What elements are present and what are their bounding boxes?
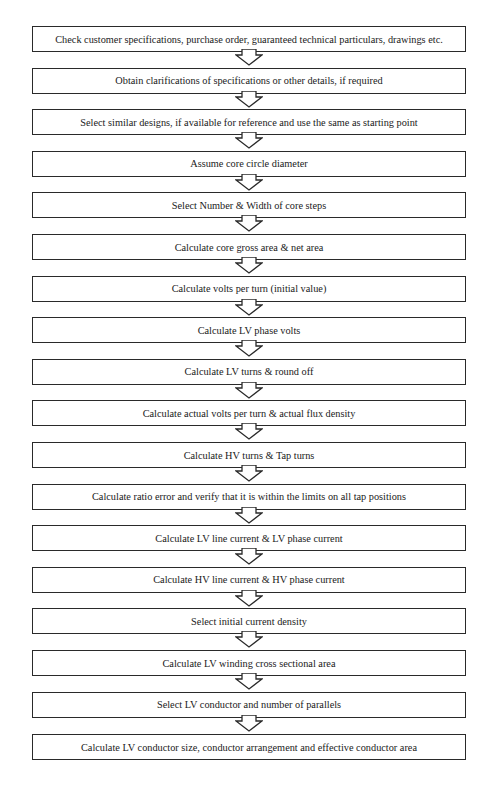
down-arrow-icon [235,215,263,232]
step-label: Calculate volts per turn (initial value) [172,283,327,294]
down-arrow-icon [235,423,263,440]
step-label: Obtain clarifications of specifications … [115,75,382,86]
down-arrow-icon [235,91,263,108]
down-arrow-icon [235,382,263,399]
down-arrow-icon [235,715,263,732]
step-lv-conductor-size-arrangement: Calculate LV conductor size, conductor a… [32,734,466,760]
step-label: Calculate HV line current & HV phase cur… [153,574,344,585]
down-arrow-icon [235,174,263,191]
down-arrow-icon [235,299,263,316]
step-label: Calculate LV phase volts [198,325,301,336]
down-arrow-icon [235,590,263,607]
step-label: Calculate actual volts per turn & actual… [143,408,356,419]
step-label: Calculate ratio error and verify that it… [92,491,406,502]
step-label: Assume core circle diameter [190,158,308,169]
down-arrow-icon [235,49,263,66]
step-label: Select initial current density [191,616,307,627]
down-arrow-icon [235,507,263,524]
step-label: Check customer specifications, purchase … [55,34,443,45]
down-arrow-icon [235,257,263,274]
step-label: Calculate LV winding cross sectional are… [163,658,336,669]
step-label: Select similar designs, if available for… [80,117,417,128]
down-arrow-icon [235,631,263,648]
step-label: Calculate core gross area & net area [175,242,324,253]
step-label: Calculate LV line current & LV phase cur… [155,533,342,544]
down-arrow-icon [235,465,263,482]
step-label: Calculate LV turns & round off [185,366,314,377]
down-arrow-icon [235,132,263,149]
down-arrow-icon [235,673,263,690]
step-label: Select LV conductor and number of parall… [157,699,341,710]
down-arrow-icon [235,340,263,357]
step-label: Select Number & Width of core steps [172,200,326,211]
step-label: Calculate LV conductor size, conductor a… [81,742,417,753]
down-arrow-icon [235,548,263,565]
step-label: Calculate HV turns & Tap turns [184,450,315,461]
